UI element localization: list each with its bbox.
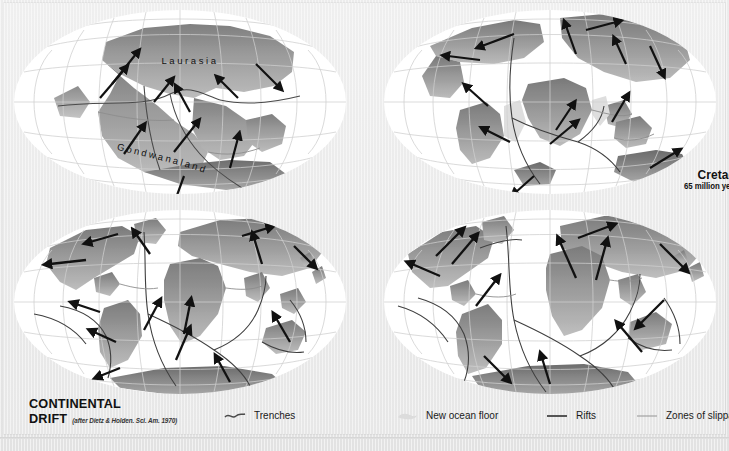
panel-present-day: Present day bbox=[0, 202, 366, 402]
legend-item-trenches: Trenches bbox=[224, 410, 295, 421]
legend-label-rifts: Rifts bbox=[576, 410, 596, 421]
legend-item-new-ocean-floor: New ocean floor bbox=[396, 410, 498, 421]
figure-attribution: (after Dietz & Holden. Sci. Am. 1970) bbox=[72, 417, 177, 425]
trenches-icon bbox=[224, 411, 246, 421]
legend-label-trenches: Trenches bbox=[254, 410, 295, 421]
bottom-divider bbox=[0, 437, 729, 439]
globe-map-jurassic: Laurasia Gondwanaland bbox=[0, 2, 366, 202]
legend-label-zones-of-slippage: Zones of slippage bbox=[666, 410, 729, 421]
legend-item-rifts: Rifts bbox=[546, 410, 596, 421]
figure-title: CONTINENTAL DRIFT (after Dietz & Holden.… bbox=[29, 396, 191, 426]
rifts-icon bbox=[546, 411, 568, 421]
figure-title-line2: DRIFT bbox=[29, 411, 67, 426]
globe-map-present bbox=[0, 202, 366, 402]
panel-cretaceous: Cretace 65 million years bbox=[364, 2, 729, 202]
caption-age-cretaceous: 65 million years bbox=[684, 182, 729, 191]
caption-cretaceous: Cretace 65 million years bbox=[679, 168, 729, 191]
continental-drift-figure: Laurasia Gondwanaland Jurassic 180 milli… bbox=[0, 0, 729, 451]
globe-map-future bbox=[364, 202, 729, 402]
legend-label-new-ocean-floor: New ocean floor bbox=[426, 410, 498, 421]
map-label-laurasia: Laurasia bbox=[161, 55, 218, 66]
zones-of-slippage-icon bbox=[636, 411, 658, 421]
panel-future: Fut 50 million years from bbox=[364, 202, 729, 402]
figure-title-line1: CONTINENTAL bbox=[29, 396, 181, 411]
caption-era-cretaceous: Cretace bbox=[684, 168, 729, 181]
globe-map-cretaceous bbox=[364, 2, 729, 202]
new-ocean-floor-icon bbox=[396, 411, 418, 421]
legend-item-zones-of-slippage: Zones of slippage bbox=[636, 410, 729, 421]
panel-jurassic: Laurasia Gondwanaland Jurassic 180 milli… bbox=[0, 2, 366, 202]
